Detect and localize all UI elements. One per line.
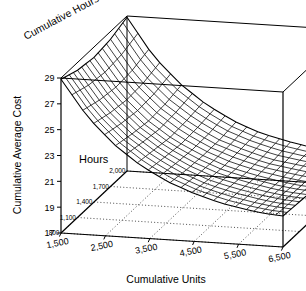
tick-label: 21 xyxy=(44,177,54,187)
depth-legend-label: Hours xyxy=(79,153,109,165)
tick-label: 19 xyxy=(44,203,54,213)
tick-label: 27 xyxy=(44,99,54,109)
tick-label: 25 xyxy=(44,125,54,135)
tick-label: 1,700 xyxy=(93,183,110,190)
tick-label: 1,100 xyxy=(60,214,77,221)
tick-label: 800 xyxy=(49,229,60,236)
tick-label: 1,400 xyxy=(76,198,93,205)
tick-label: 29 xyxy=(44,73,54,83)
surface-chart-figure: 171921232527291,5002,5003,5004,5005,5006… xyxy=(0,0,306,291)
tick-label: 23 xyxy=(44,151,54,161)
surface-plot-svg: 171921232527291,5002,5003,5004,5005,5006… xyxy=(0,0,306,291)
x-axis-title: Cumulative Units xyxy=(126,273,205,285)
y-axis-title: Cumulative Average Cost xyxy=(11,96,23,214)
tick-label: 2,000 xyxy=(109,167,126,174)
